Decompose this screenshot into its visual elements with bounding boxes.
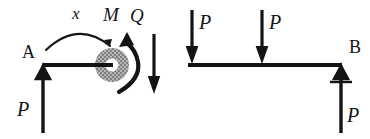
label-support-b: B bbox=[349, 37, 361, 57]
load-arrow-1 bbox=[186, 10, 199, 64]
right-full-beam-diagram: P P B P bbox=[186, 10, 361, 133]
label-load-p-1: P bbox=[198, 11, 211, 33]
label-dimension-x: x bbox=[71, 4, 80, 23]
load-arrow-2 bbox=[256, 10, 269, 64]
label-moment-m: M bbox=[102, 4, 120, 25]
shear-arrow-q bbox=[148, 34, 160, 94]
label-reaction-p-right: P bbox=[346, 104, 359, 126]
free-body-diagram-figure: A x M Q P bbox=[0, 0, 370, 139]
left-cut-section-diagram: A x M Q P bbox=[16, 4, 160, 133]
label-support-a: A bbox=[22, 42, 35, 62]
label-reaction-p-left: P bbox=[16, 98, 29, 120]
dimension-arc-x bbox=[46, 34, 112, 50]
label-load-p-2: P bbox=[268, 11, 281, 33]
diagram-canvas: A x M Q P bbox=[0, 0, 370, 139]
label-shear-q: Q bbox=[130, 5, 144, 26]
